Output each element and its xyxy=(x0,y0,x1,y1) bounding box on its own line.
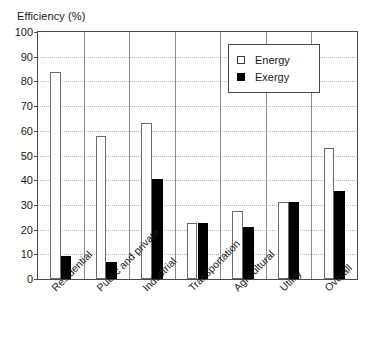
gridline xyxy=(38,156,357,157)
legend-item-energy: Energy xyxy=(237,51,311,68)
gridline xyxy=(38,205,357,206)
bar-energy-utility xyxy=(278,202,289,279)
legend-item-exergy: Exergy xyxy=(237,68,311,85)
y-axis-tick-mark xyxy=(34,81,38,82)
bar-energy-public-and-private xyxy=(96,136,107,279)
bar-energy-residential xyxy=(50,72,61,279)
y-axis-tick-mark xyxy=(34,205,38,206)
y-axis-tick-label: 30 xyxy=(21,199,33,211)
gridline xyxy=(38,131,357,132)
gridline xyxy=(38,180,357,181)
bar-energy-industrial xyxy=(141,123,152,279)
y-axis-tick-label: 100 xyxy=(15,26,33,38)
y-axis-tick-mark xyxy=(34,32,38,33)
y-axis-tick-mark xyxy=(34,156,38,157)
y-axis-tick-mark xyxy=(34,57,38,58)
y-axis-tick-label: 60 xyxy=(21,125,33,137)
y-axis-tick-mark xyxy=(34,180,38,181)
y-axis-tick-mark xyxy=(34,230,38,231)
category-separator xyxy=(129,32,130,279)
legend-label-exergy: Exergy xyxy=(255,71,289,83)
chart-axis-title: Efficiency (%) xyxy=(17,10,85,22)
y-axis-tick-label: 20 xyxy=(21,224,33,236)
y-axis-tick-label: 40 xyxy=(21,174,33,186)
category-separator xyxy=(175,32,176,279)
category-separator xyxy=(220,32,221,279)
y-axis-tick-mark xyxy=(34,279,38,280)
y-axis-tick-label: 70 xyxy=(21,100,33,112)
gridline xyxy=(38,106,357,107)
y-axis-tick-label: 90 xyxy=(21,51,33,63)
y-axis-tick-mark xyxy=(34,106,38,107)
efficiency-bar-chart: Efficiency (%) 0102030405060708090100 Re… xyxy=(0,0,378,354)
legend-label-energy: Energy xyxy=(255,54,290,66)
y-axis-tick-label: 50 xyxy=(21,150,33,162)
category-separator xyxy=(84,32,85,279)
filled-square-icon xyxy=(237,73,245,81)
chart-legend: Energy Exergy xyxy=(228,44,320,93)
open-square-icon xyxy=(237,56,245,64)
y-axis-tick-mark xyxy=(34,131,38,132)
y-axis-tick-label: 80 xyxy=(21,75,33,87)
y-axis-tick-label: 10 xyxy=(21,248,33,260)
bar-energy-transportation xyxy=(187,223,198,279)
y-axis-tick-label: 0 xyxy=(27,273,33,285)
y-axis-tick-mark xyxy=(34,254,38,255)
bar-energy-overall xyxy=(324,148,335,279)
